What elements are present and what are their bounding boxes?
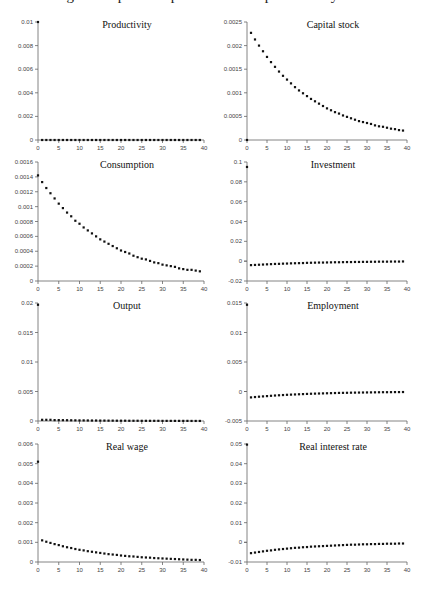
data-point <box>350 544 352 546</box>
data-point <box>190 420 192 422</box>
x-tick-label: 5 <box>265 286 269 292</box>
data-point <box>314 545 316 547</box>
data-point <box>274 263 276 265</box>
data-point <box>322 105 324 107</box>
y-tick-label: 0.02 <box>230 238 242 244</box>
data-point <box>107 420 109 422</box>
data-point <box>87 139 89 141</box>
data-point <box>250 552 252 554</box>
x-tick-label: 25 <box>138 426 145 432</box>
data-point <box>66 139 68 141</box>
data-point <box>166 264 168 266</box>
data-point <box>112 245 114 247</box>
x-tick-label: 15 <box>304 426 311 432</box>
y-tick-label: 0.0005 <box>224 113 243 119</box>
data-point <box>170 139 172 141</box>
x-tick-label: 30 <box>364 567 371 573</box>
data-point <box>87 229 89 231</box>
y-tick-label: 0.0012 <box>15 189 34 195</box>
data-point <box>83 549 85 551</box>
y-tick-label: 0.06 <box>230 199 242 205</box>
y-tick-label: 0.04 <box>230 219 242 225</box>
data-point <box>190 559 192 561</box>
data-point <box>346 261 348 263</box>
data-point <box>107 243 109 245</box>
data-point <box>132 420 134 422</box>
data-point <box>103 240 105 242</box>
data-point <box>354 392 356 394</box>
data-point <box>199 420 201 422</box>
data-point <box>390 128 392 130</box>
x-tick-label: 35 <box>384 145 391 151</box>
data-point <box>95 419 97 421</box>
y-tick-label: 0 <box>30 137 34 143</box>
x-tick-label: 40 <box>404 286 411 292</box>
data-point <box>310 262 312 264</box>
data-point <box>362 543 364 545</box>
data-point <box>374 261 376 263</box>
data-point <box>120 420 122 422</box>
y-tick-label: -0.01 <box>228 559 242 565</box>
data-point <box>145 258 147 260</box>
y-tick-label: 0.0014 <box>15 174 34 180</box>
data-point <box>37 21 39 23</box>
data-point <box>66 211 68 213</box>
data-point <box>294 86 296 88</box>
data-point <box>370 123 372 125</box>
data-point <box>318 392 320 394</box>
y-tick-label: 0.04 <box>230 461 242 467</box>
x-tick-label: 15 <box>97 286 104 292</box>
data-point <box>250 32 252 34</box>
data-point <box>346 544 348 546</box>
data-point <box>338 392 340 394</box>
data-point <box>137 256 139 258</box>
data-point <box>54 139 56 141</box>
data-point <box>378 261 380 263</box>
data-point <box>99 139 101 141</box>
data-point <box>398 391 400 393</box>
data-point <box>157 420 159 422</box>
data-point <box>170 558 172 560</box>
x-tick-label: 15 <box>304 567 311 573</box>
data-point <box>190 269 192 271</box>
data-point <box>262 50 264 52</box>
y-tick-label: 0 <box>239 137 243 143</box>
data-point <box>37 461 39 463</box>
data-point <box>99 552 101 554</box>
data-point <box>74 548 76 550</box>
x-tick-label: 20 <box>324 286 331 292</box>
data-point <box>334 392 336 394</box>
data-point <box>182 268 184 270</box>
data-point <box>402 391 404 393</box>
y-tick-label: 0.003 <box>18 500 34 506</box>
data-point <box>306 95 308 97</box>
x-tick-label: 30 <box>159 567 166 573</box>
data-point <box>354 119 356 121</box>
data-point <box>74 419 76 421</box>
data-point <box>116 247 118 249</box>
data-point <box>83 139 85 141</box>
y-tick-label: -0.02 <box>228 278 242 284</box>
data-point <box>116 420 118 422</box>
data-point <box>170 265 172 267</box>
y-tick-label: 0 <box>239 389 243 395</box>
x-tick-label: 0 <box>245 567 249 573</box>
data-point <box>374 391 376 393</box>
data-point <box>186 269 188 271</box>
data-point <box>178 420 180 422</box>
data-point <box>62 139 64 141</box>
data-point <box>310 393 312 395</box>
data-point <box>298 262 300 264</box>
data-point <box>153 139 155 141</box>
data-point <box>370 391 372 393</box>
data-point <box>394 391 396 393</box>
data-point <box>374 543 376 545</box>
data-point <box>282 394 284 396</box>
panel-title: Employment <box>307 300 359 311</box>
panel-consumption: 00.00020.00040.00060.00080.0010.00120.00… <box>15 159 208 292</box>
data-point <box>390 260 392 262</box>
data-point <box>178 558 180 560</box>
data-point <box>282 75 284 77</box>
data-point <box>366 122 368 124</box>
data-point <box>54 197 56 199</box>
